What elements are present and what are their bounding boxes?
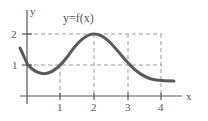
chart-title: y=f(x) <box>63 11 94 25</box>
x-tick-label-2: 2 <box>91 101 97 113</box>
grid-lines <box>27 34 162 96</box>
x-axis-label: x <box>186 90 192 102</box>
x-tick-label-1: 1 <box>57 101 63 113</box>
axes <box>20 10 182 104</box>
x-tick-label-4: 4 <box>158 101 164 113</box>
y-axis-label: y <box>30 5 36 17</box>
function-curve <box>20 34 174 81</box>
function-graph: y x y=f(x) 2 1 1 2 3 4 <box>0 0 208 121</box>
y-tick-label-1: 1 <box>12 59 18 71</box>
y-tick-label-2: 2 <box>11 28 17 40</box>
x-tick-label-3: 3 <box>125 101 131 113</box>
